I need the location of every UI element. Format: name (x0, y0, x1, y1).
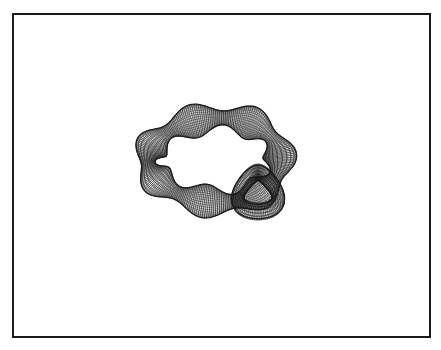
knotted-tube-wireframe (136, 104, 297, 218)
wireframe-surface-illustration (0, 0, 441, 350)
